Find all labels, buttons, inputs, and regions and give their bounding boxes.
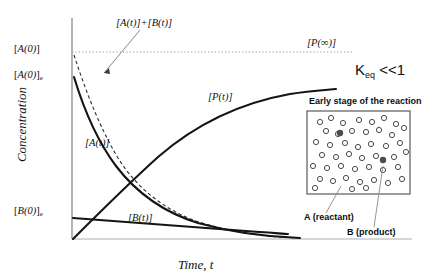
y-tick-label-a0: [A(0)] [14, 44, 40, 55]
curve-b [73, 218, 288, 234]
inset-product-circle [337, 130, 343, 136]
inset-label-product: B (product) [347, 228, 396, 237]
figure-canvas: [A(0)] [A(0)]e [B(0)]e [A(t)]+[B(t)] [A(… [0, 0, 436, 280]
inset-product-circle [380, 157, 386, 163]
inset-label-reactant: A (reactant) [304, 213, 354, 222]
x-axis-label: Time, t [178, 258, 213, 271]
plot-svg [0, 0, 436, 280]
y-tick-label-b0-eq: [B(0)]e [14, 206, 43, 218]
series-label-sum: [A(t)]+[B(t)] [116, 18, 172, 29]
equilibrium-constant-annotation: Keq <<1 [355, 62, 405, 80]
series-label-a: [A(t)] [85, 138, 110, 149]
series-label-b: [B(t)] [128, 213, 153, 224]
y-axis-label: Concentration [15, 77, 28, 173]
inset-title: Early stage of the reaction [309, 97, 422, 106]
reference-label-p-infinity: [P(∞)] [307, 38, 336, 49]
curve-p [73, 89, 336, 239]
inset-box [307, 111, 410, 194]
curve-a [74, 77, 300, 238]
series-label-p: [P(t)] [208, 92, 233, 103]
